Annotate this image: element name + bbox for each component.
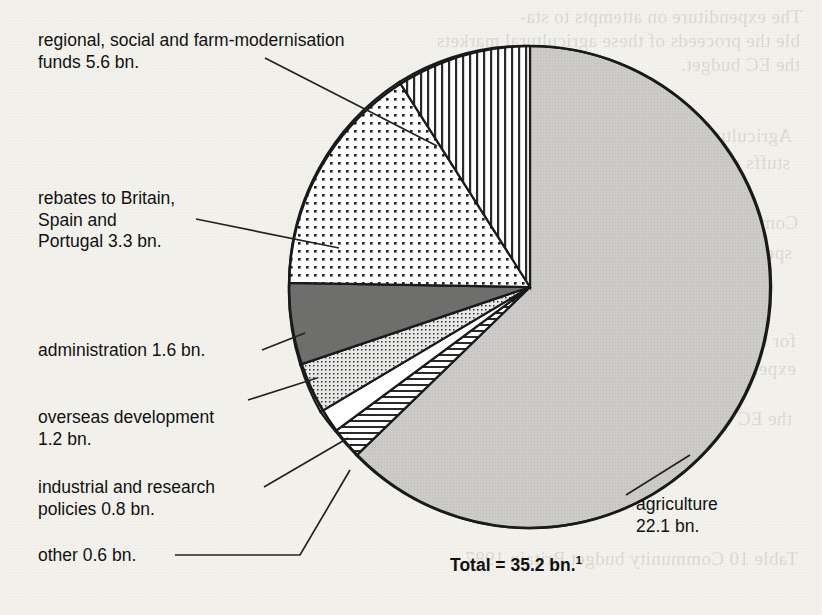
label-regional-funds-line2: funds 5.6 bn. [38,52,139,72]
label-overseas-development-line2: 1.2 bn. [38,429,92,449]
label-other: other 0.6 bn. [38,545,136,567]
label-rebates: rebates to Britain, Spain and Portugal 3… [38,188,175,253]
label-overseas-development-line1: overseas development [38,407,214,427]
total-text: Total = 35.2 bn. [450,555,576,575]
leader-line-overseas-development [248,378,317,400]
total-label: Total = 35.2 bn.1 [450,550,582,576]
label-rebates-line3: Portugal 3.3 bn. [38,231,162,251]
label-regional-funds: regional, social and farm-modernisation … [38,30,344,73]
label-industrial-research-line2: policies 0.8 bn. [38,499,155,519]
leader-line-industrial-research [264,438,348,487]
label-agriculture-line2: 22.1 bn. [636,516,699,536]
total-footnote-marker: 1 [576,554,582,566]
label-agriculture: agriculture 22.1 bn. [636,494,718,537]
label-industrial-research-line1: industrial and research [38,477,215,497]
label-rebates-line2: Spain and [38,210,117,230]
label-regional-funds-line1: regional, social and farm-modernisation [38,30,344,50]
label-rebates-line1: rebates to Britain, [38,188,175,208]
pie-chart: regional, social and farm-modernisation … [0,0,822,615]
label-industrial-research: industrial and research policies 0.8 bn. [38,477,215,520]
label-agriculture-line1: agriculture [636,494,718,514]
label-administration: administration 1.6 bn. [38,340,205,362]
label-overseas-development: overseas development 1.2 bn. [38,407,214,450]
